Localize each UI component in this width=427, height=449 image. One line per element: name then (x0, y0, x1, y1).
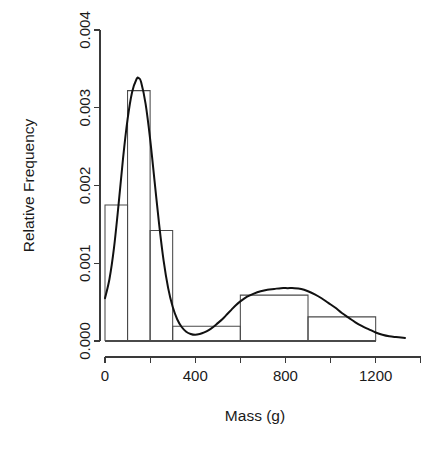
x-axis-tick-label: 400 (183, 367, 208, 384)
y-axis-title: Relative Frequency (20, 118, 37, 252)
y-axis-tick-label: 0.001 (76, 244, 93, 282)
y-axis-tick-label: 0.002 (76, 167, 93, 205)
y-axis-tick-label: 0.004 (76, 11, 93, 49)
y-axis-tick-label: 0.000 (76, 322, 93, 360)
histogram-bars (105, 91, 376, 341)
histogram-figure: 0.0000.0010.0020.0030.004 04008001200 Re… (0, 0, 427, 449)
y-axis (94, 30, 100, 341)
x-axis-tick-label: 0 (101, 367, 109, 384)
x-axis-tick-label: 1200 (359, 367, 392, 384)
x-axis-tick-labels: 04008001200 (101, 367, 393, 384)
histogram-bar (308, 317, 376, 341)
y-axis-tick-labels: 0.0000.0010.0020.0030.004 (76, 11, 93, 360)
x-axis-title: Mass (g) (225, 407, 285, 424)
x-axis (105, 357, 421, 363)
histogram-bar (128, 91, 151, 341)
y-axis-tick-label: 0.003 (76, 89, 93, 127)
histogram-bar (240, 295, 308, 341)
x-axis-tick-label: 800 (273, 367, 298, 384)
plot-canvas: 0.0000.0010.0020.0030.004 04008001200 Re… (0, 0, 427, 449)
